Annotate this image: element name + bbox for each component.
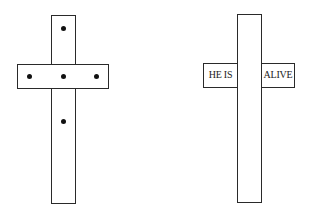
dot-right [94, 74, 99, 79]
dot-left [27, 74, 32, 79]
dot-top [61, 26, 66, 31]
left-cross-vertical-beam [51, 15, 76, 204]
left-arm-label: HE IS [203, 63, 238, 88]
right-arm-label: ALIVE [261, 63, 295, 88]
dot-center [61, 74, 66, 79]
dot-bottom [61, 119, 66, 124]
right-cross-vertical-beam [237, 14, 262, 203]
